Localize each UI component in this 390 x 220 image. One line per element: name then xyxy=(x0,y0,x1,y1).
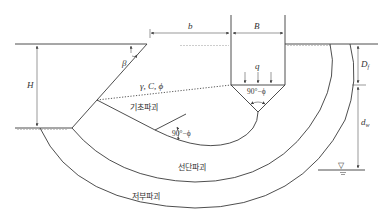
radial-angle-label: 90°−ϕ xyxy=(172,129,191,138)
width-dimensions: b B xyxy=(150,21,283,38)
base-failure-label: 기초파괴 xyxy=(130,103,158,112)
B-label: B xyxy=(254,21,260,31)
base-failure-zone: 기초파괴 90°−ϕ xyxy=(97,100,258,146)
soil-params-label: γ, C, ϕ xyxy=(140,81,164,91)
ground-surface xyxy=(15,44,378,130)
toe-failure-label: 선단파괴 xyxy=(178,162,206,172)
dw-label: dw xyxy=(361,117,370,128)
Df-label: Df xyxy=(360,59,371,70)
dotted-line xyxy=(97,85,231,100)
wedge-angle-label: 90°−ϕ xyxy=(247,87,266,96)
deep-failure-label: 저부파괴 xyxy=(132,192,160,201)
base-failure-surface xyxy=(155,112,258,146)
H-label: H xyxy=(26,80,34,90)
deep-failure-surface xyxy=(40,44,354,208)
slope-bearing-capacity-diagram: q 90°−ϕ b B H β γ, C, ϕ 기초파괴 90°−ϕ 선단파괴 xyxy=(0,0,390,220)
radial-line xyxy=(155,114,186,130)
toe-failure-zone: 선단파괴 xyxy=(72,44,332,182)
load-label: q xyxy=(255,61,260,71)
beta-label: β xyxy=(121,58,127,68)
deep-failure-zone: 저부파괴 xyxy=(40,44,354,208)
toe-failure-surface xyxy=(72,44,332,182)
height-dimension: H xyxy=(26,46,37,126)
wedge-angle-arc xyxy=(251,102,265,104)
b-label: b xyxy=(188,21,193,31)
water-table-icon: ▽ xyxy=(338,161,345,170)
depth-dimensions: Df dw ▽ xyxy=(318,46,371,175)
